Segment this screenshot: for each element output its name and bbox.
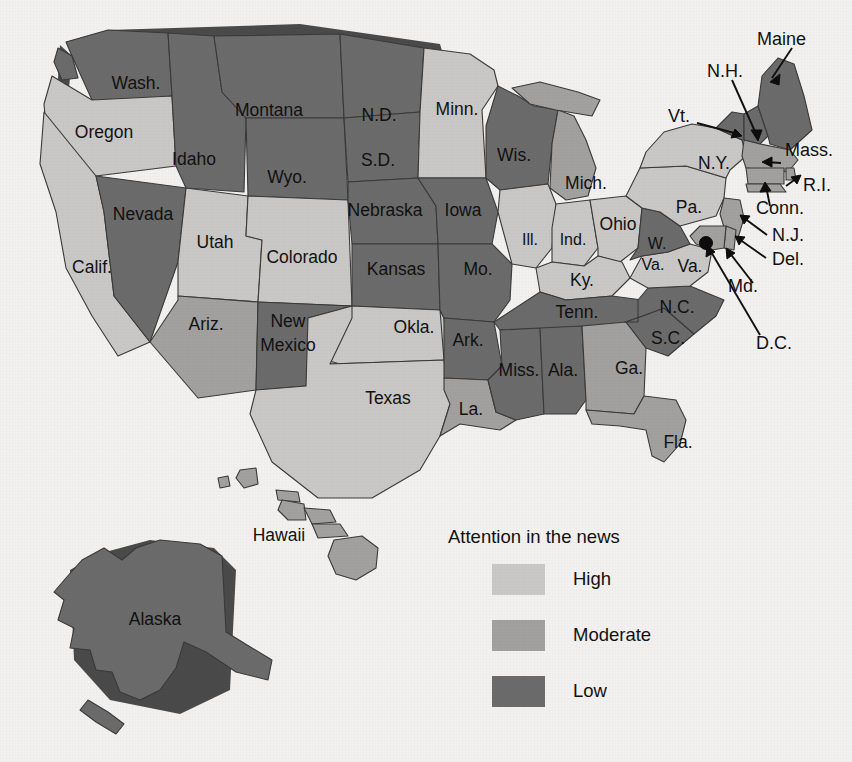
label-texas: Texas <box>365 388 411 408</box>
label-louisiana: La. <box>459 399 483 419</box>
label-alabama: Ala. <box>548 360 578 380</box>
state-alaska-group <box>54 540 272 734</box>
arrowhead-ri <box>791 175 801 184</box>
label-pennsylvania: Pa. <box>676 197 702 217</box>
label-north-carolina: N.C. <box>660 297 695 317</box>
label-west-virginia-1: W. <box>648 235 667 252</box>
label-missouri: Mo. <box>463 259 492 279</box>
label-oklahoma: Okla. <box>394 317 435 337</box>
label-arizona: Ariz. <box>189 314 224 334</box>
state-hawaii-lanai <box>304 508 336 524</box>
map-figure: Wash. Oregon Calif. Nevada Idaho Montana… <box>0 0 852 762</box>
label-hawaii: Hawaii <box>253 525 306 545</box>
label-tennessee: Tenn. <box>556 302 599 322</box>
legend-title: Attention in the news <box>448 526 747 548</box>
callout-maine: Maine <box>757 29 806 49</box>
label-south-dakota: S.D. <box>361 150 395 170</box>
label-florida: Fla. <box>663 432 692 452</box>
leader-del <box>739 239 766 258</box>
label-new-mexico-1: New <box>270 311 305 331</box>
label-alaska: Alaska <box>129 609 182 629</box>
state-illinois <box>498 184 556 268</box>
callout-del: Del. <box>772 249 804 269</box>
label-mississippi: Miss. <box>499 360 540 380</box>
callout-md: Md. <box>728 276 758 296</box>
label-new-york: N.Y. <box>698 153 730 173</box>
state-hawaii-molokai <box>276 490 300 502</box>
label-ohio: Ohio <box>600 214 637 234</box>
legend-label-low: Low <box>573 680 607 702</box>
legend-swatch-high <box>492 564 545 595</box>
callout-nj: N.J. <box>772 225 804 245</box>
label-wyoming: Wyo. <box>267 167 307 187</box>
label-illinois: Ill. <box>522 231 538 248</box>
state-hawaii-maui <box>278 500 306 520</box>
label-south-carolina: S.C. <box>651 328 685 348</box>
label-new-mexico-2: Mexico <box>260 335 315 355</box>
state-hawaii-oahu <box>236 468 258 488</box>
callout-dc: D.C. <box>756 333 792 353</box>
state-hawaii-kauai <box>218 476 230 488</box>
label-kentucky: Ky. <box>570 270 594 290</box>
state-arizona <box>150 296 258 398</box>
label-washington: Wash. <box>112 73 161 93</box>
legend-label-moderate: Moderate <box>573 624 651 646</box>
callout-conn: Conn. <box>756 198 804 218</box>
label-nevada: Nevada <box>113 204 174 224</box>
legend-row-low: Low <box>447 674 747 708</box>
label-idaho: Idaho <box>172 149 216 169</box>
state-alaska-aleutians <box>80 700 124 734</box>
legend-row-high: High <box>447 562 747 596</box>
label-california: Calif. <box>72 257 112 277</box>
label-minnesota: Minn. <box>436 99 479 119</box>
label-georgia: Ga. <box>615 358 643 378</box>
label-iowa: Iowa <box>445 200 482 220</box>
label-wisconsin: Wis. <box>497 145 531 165</box>
callout-mass: Mass. <box>785 140 833 160</box>
label-arkansas: Ark. <box>452 330 483 350</box>
callout-nh: N.H. <box>707 61 743 81</box>
label-oregon: Oregon <box>75 122 133 142</box>
callout-ri: R.I. <box>803 175 831 195</box>
state-missouri <box>438 244 512 322</box>
label-montana: Montana <box>235 100 303 120</box>
label-nebraska: Nebraska <box>348 200 423 220</box>
arrowhead-del <box>735 236 745 245</box>
state-hawaii-bigisland <box>328 536 378 580</box>
state-hawaii-kahoolawe <box>312 524 348 538</box>
callout-vt: Vt. <box>668 106 690 126</box>
leader-nj <box>744 218 767 235</box>
label-utah: Utah <box>197 232 234 252</box>
label-kansas: Kansas <box>367 259 426 279</box>
label-north-dakota: N.D. <box>362 105 397 125</box>
state-washington <box>66 30 172 104</box>
state-wyoming <box>246 118 348 200</box>
label-indiana: Ind. <box>560 231 587 248</box>
label-virginia: Va. <box>678 256 703 276</box>
legend-row-moderate: Moderate <box>447 618 747 652</box>
label-colorado: Colorado <box>266 247 337 267</box>
legend-label-high: High <box>573 568 611 590</box>
legend-swatch-low <box>492 676 545 707</box>
legend: Attention in the news High Moderate Low <box>447 526 747 730</box>
legend-swatch-moderate <box>492 620 545 651</box>
label-michigan: Mich. <box>565 173 607 193</box>
label-west-virginia-2: Va. <box>642 256 665 273</box>
